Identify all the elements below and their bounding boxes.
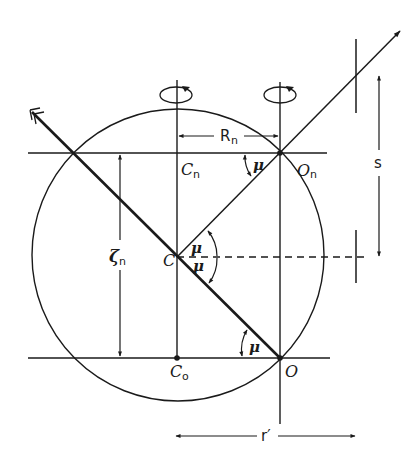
angle-arc-center-lower [209,258,217,283]
svg-text:O: O [297,161,310,180]
point-O [277,355,283,361]
svg-text:C: C [170,362,182,381]
svg-text:R: R [220,127,230,145]
label-Co: C o [170,362,189,383]
point-Co [174,355,180,361]
svg-text:o: o [182,370,189,383]
label-mu-center-upper: μ [191,239,202,257]
label-zeta-n: ζ n [109,246,126,268]
angle-arc-center-upper [208,231,217,256]
label-Rn: R n [220,127,238,147]
label-mu-bottom: μ [249,338,260,356]
svg-text:n: n [310,168,317,181]
point-On [277,150,283,156]
label-mu-top: μ [253,156,264,174]
reflected-ray [177,31,400,257]
label-C: C [163,251,175,270]
label-O: O [285,362,298,381]
angle-arc-bottom [241,330,247,356]
label-s: s [374,154,382,172]
label-mu-center-lower: μ [193,257,204,275]
label-On: O n [297,161,317,181]
optics-diagram: R n C n O n μ ζ n C μ μ s μ C o O r′ [0,0,419,457]
label-Cn: C n [181,160,200,181]
svg-text:C: C [181,160,193,179]
svg-text:n: n [231,134,238,147]
angle-arc-top [245,155,251,176]
label-r-prime: r′ [261,427,271,445]
svg-text:n: n [193,168,200,181]
incident-ray [32,112,280,358]
svg-text:n: n [119,255,126,268]
